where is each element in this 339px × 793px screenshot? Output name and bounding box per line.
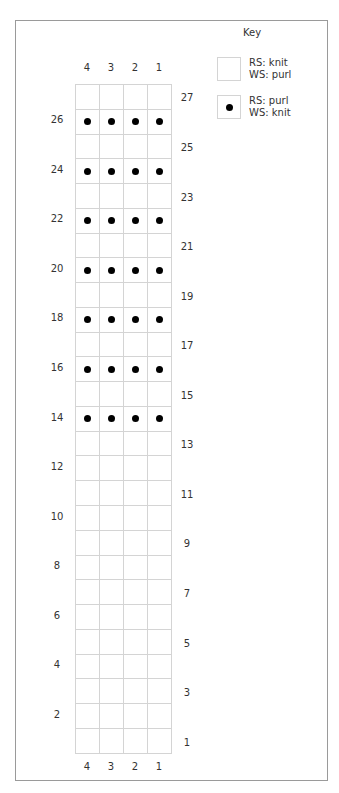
dot-icon xyxy=(108,267,115,274)
chart-cell xyxy=(124,258,148,283)
chart-cell xyxy=(124,85,148,110)
dot-icon xyxy=(156,267,163,274)
dot-icon xyxy=(84,168,91,175)
chart-cell xyxy=(100,85,124,110)
chart-row-18 xyxy=(76,308,172,333)
chart-row-6 xyxy=(76,605,172,630)
chart-cell xyxy=(148,630,172,655)
chart-row-7 xyxy=(76,580,172,605)
row-label-11: 11 xyxy=(176,489,198,501)
chart-row-27 xyxy=(76,85,172,110)
chart-cell xyxy=(124,556,148,581)
chart-cell xyxy=(124,630,148,655)
chart-cell xyxy=(124,159,148,184)
chart-cell xyxy=(100,333,124,358)
row-label-4: 4 xyxy=(46,659,68,671)
chart-cell xyxy=(148,531,172,556)
chart-cell xyxy=(148,506,172,531)
chart-row-11 xyxy=(76,481,172,506)
row-label-20: 20 xyxy=(46,263,68,275)
dot-icon xyxy=(132,316,139,323)
chart-cell xyxy=(100,110,124,135)
chart-cell xyxy=(148,605,172,630)
row-label-16: 16 xyxy=(46,362,68,374)
chart-cell xyxy=(148,556,172,581)
chart-cell xyxy=(76,679,100,704)
dot-icon xyxy=(84,415,91,422)
chart-row-8 xyxy=(76,556,172,581)
chart-row-23 xyxy=(76,184,172,209)
chart-cell xyxy=(76,382,100,407)
row-label-13: 13 xyxy=(176,439,198,451)
chart-cell xyxy=(148,85,172,110)
chart-cell xyxy=(124,407,148,432)
chart-cell xyxy=(124,110,148,135)
dot-icon xyxy=(108,217,115,224)
chart-cell xyxy=(76,729,100,754)
chart-cell xyxy=(76,184,100,209)
chart-cell xyxy=(100,258,124,283)
chart-row-15 xyxy=(76,382,172,407)
row-label-27: 27 xyxy=(176,92,198,104)
chart-cell xyxy=(148,333,172,358)
chart-cell xyxy=(148,357,172,382)
column-label: 1 xyxy=(147,761,171,772)
chart-cell xyxy=(148,159,172,184)
column-label: 2 xyxy=(123,62,147,73)
column-label: 4 xyxy=(75,62,99,73)
chart-row-22 xyxy=(76,209,172,234)
row-label-9: 9 xyxy=(176,538,198,550)
column-label: 3 xyxy=(99,62,123,73)
row-label-6: 6 xyxy=(46,610,68,622)
chart-cell xyxy=(124,605,148,630)
chart-cell xyxy=(148,184,172,209)
key-item-knit: RS: knit WS: purl xyxy=(217,57,327,83)
chart-cell xyxy=(124,456,148,481)
dot-icon xyxy=(226,104,233,111)
chart-cell xyxy=(76,506,100,531)
chart-cell xyxy=(76,308,100,333)
chart-cell xyxy=(100,234,124,259)
row-label-25: 25 xyxy=(176,142,198,154)
chart-cell xyxy=(148,704,172,729)
chart-cell xyxy=(148,258,172,283)
chart-row-10 xyxy=(76,506,172,531)
dot-icon xyxy=(156,415,163,422)
row-label-10: 10 xyxy=(46,511,68,523)
row-label-5: 5 xyxy=(176,638,198,650)
chart-cell xyxy=(124,357,148,382)
row-label-2: 2 xyxy=(46,709,68,721)
chart-cell xyxy=(76,333,100,358)
chart-cell xyxy=(76,209,100,234)
chart-cell xyxy=(124,333,148,358)
chart-cell xyxy=(100,357,124,382)
chart-cell xyxy=(124,506,148,531)
chart-row-26 xyxy=(76,110,172,135)
chart-row-16 xyxy=(76,357,172,382)
dot-icon xyxy=(108,316,115,323)
chart-row-20 xyxy=(76,258,172,283)
chart-cell xyxy=(124,135,148,160)
chart-cell xyxy=(124,704,148,729)
chart-cell xyxy=(124,234,148,259)
chart-row-1 xyxy=(76,729,172,754)
dot-icon xyxy=(156,316,163,323)
chart-cell xyxy=(76,580,100,605)
chart-cell xyxy=(76,85,100,110)
dot-icon xyxy=(156,168,163,175)
chart-cell xyxy=(100,704,124,729)
row-label-3: 3 xyxy=(176,687,198,699)
chart-row-13 xyxy=(76,432,172,457)
chart-cell xyxy=(76,655,100,680)
chart-cell xyxy=(148,283,172,308)
dot-icon xyxy=(108,168,115,175)
dot-icon xyxy=(132,415,139,422)
chart-cell xyxy=(100,580,124,605)
chart-row-12 xyxy=(76,456,172,481)
chart-row-21 xyxy=(76,234,172,259)
chart-cell xyxy=(76,630,100,655)
dot-icon xyxy=(108,366,115,373)
chart-row-9 xyxy=(76,531,172,556)
chart-cell xyxy=(100,605,124,630)
chart-cell xyxy=(148,432,172,457)
